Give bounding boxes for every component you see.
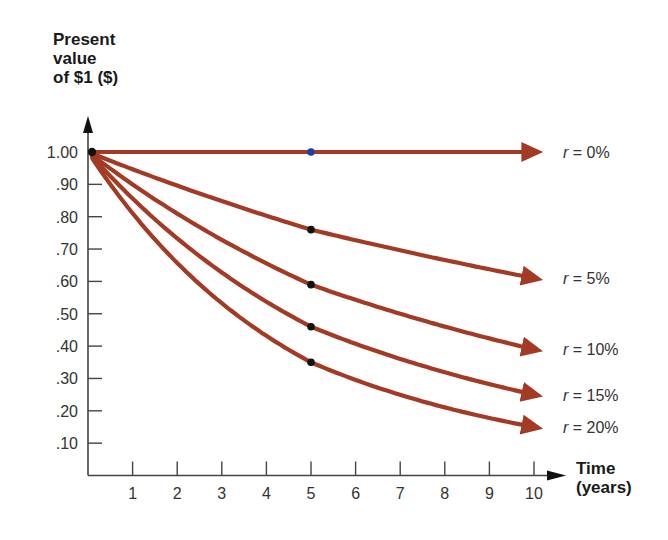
curve-5-percent (92, 152, 534, 278)
series-label: r = 0% (563, 144, 610, 161)
present-value-chart: 1.00.90.80.70.60.50.40.30.20.10 12345678… (0, 0, 668, 540)
y-axis-ticks: 1.00.90.80.70.60.50.40.30.20.10 (47, 144, 102, 452)
x-axis-arrow-icon (547, 471, 566, 481)
y-tick-label: .40 (56, 338, 78, 355)
x-tick-label: 2 (173, 485, 182, 502)
x-axis-ticks: 12345678910 (128, 462, 543, 502)
x-tick-label: 5 (307, 485, 316, 502)
y-tick-label: 1.00 (47, 144, 78, 161)
data-point-t5 (307, 226, 315, 234)
y-tick-label: .80 (56, 209, 78, 226)
x-tick-label: 6 (351, 485, 360, 502)
x-tick-label: 4 (262, 485, 271, 502)
y-tick-label: .90 (56, 176, 78, 193)
curve-15-percent (92, 152, 534, 395)
y-tick-label: .70 (56, 241, 78, 258)
data-point-t5 (307, 148, 315, 156)
y-tick-label: .30 (56, 370, 78, 387)
x-tick-label: 7 (396, 485, 405, 502)
y-tick-label: .20 (56, 403, 78, 420)
series-label: r = 20% (563, 419, 619, 436)
series-label: r = 15% (563, 387, 619, 404)
series-label: r = 10% (563, 341, 619, 358)
curve-20-percent (92, 152, 534, 427)
axes (83, 116, 566, 481)
curves (88, 148, 534, 427)
series-labels: r = 0%r = 5%r = 10%r = 15%r = 20% (563, 144, 619, 436)
x-tick-label: 8 (440, 485, 449, 502)
x-tick-label: 10 (525, 485, 543, 502)
origin-point (88, 148, 96, 156)
x-tick-label: 3 (217, 485, 226, 502)
y-tick-label: .50 (56, 306, 78, 323)
x-tick-label: 9 (485, 485, 494, 502)
y-tick-label: .10 (56, 435, 78, 452)
curve-10-percent (92, 152, 534, 349)
data-point-t5 (307, 281, 315, 289)
data-point-t5 (307, 323, 315, 331)
series-label: r = 5% (563, 270, 610, 287)
y-axis-arrow-icon (83, 116, 93, 133)
data-point-t5 (307, 358, 315, 366)
x-tick-label: 1 (128, 485, 137, 502)
y-tick-label: .60 (56, 273, 78, 290)
